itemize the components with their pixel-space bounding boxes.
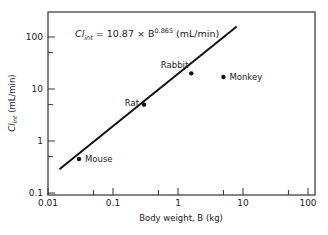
x-axis-label: Body weight, B (kg) bbox=[139, 213, 223, 223]
y-tick-label: 1 bbox=[37, 136, 43, 146]
fit-line bbox=[59, 26, 236, 169]
x-tick-label: 10 bbox=[237, 198, 249, 208]
data-point-monkey bbox=[221, 75, 225, 79]
data-point-rabbit bbox=[189, 71, 193, 75]
x-tick-label: 100 bbox=[299, 198, 316, 208]
y-axis-label: Clint (mL/min) bbox=[7, 74, 18, 131]
x-tick-label: 1 bbox=[175, 198, 181, 208]
x-tick-label: 0.1 bbox=[106, 198, 120, 208]
point-label-rabbit: Rabbit bbox=[161, 60, 189, 70]
y-axis: 0.1110100 bbox=[26, 32, 55, 198]
y-tick-label: 100 bbox=[26, 32, 43, 42]
point-label-monkey: Monkey bbox=[229, 72, 262, 82]
allometric-scatter-chart: 0.1110100 0.010.1110100 MouseRatRabbitMo… bbox=[0, 0, 328, 235]
point-label-mouse: Mouse bbox=[85, 154, 113, 164]
data-points: MouseRatRabbitMonkey bbox=[77, 60, 262, 164]
point-label-rat: Rat bbox=[125, 98, 140, 108]
equation-annotation: Clint = 10.87 × B0.865 (mL/min) bbox=[75, 27, 219, 42]
data-point-mouse bbox=[77, 157, 81, 161]
data-point-rat bbox=[142, 102, 146, 106]
y-tick-label: 0.1 bbox=[29, 188, 43, 198]
y-tick-label: 10 bbox=[32, 84, 44, 94]
x-axis: 0.010.1110100 bbox=[38, 188, 317, 208]
x-tick-label: 0.01 bbox=[38, 198, 58, 208]
